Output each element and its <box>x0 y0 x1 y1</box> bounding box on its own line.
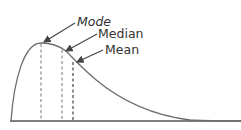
skewed-distribution-diagram: Mode Median Mean <box>0 0 241 130</box>
mode-arrow <box>44 23 75 42</box>
median-label: Median <box>98 26 143 41</box>
mean-arrow <box>77 50 103 62</box>
median-arrow <box>66 34 97 51</box>
mean-label: Mean <box>105 42 139 57</box>
